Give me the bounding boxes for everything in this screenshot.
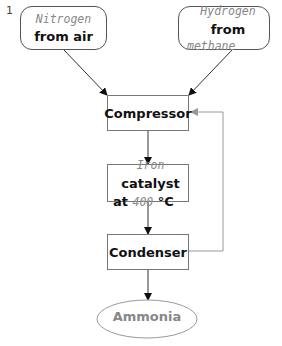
compressor-box: Compressor	[107, 95, 189, 131]
hydrogen-source-box: Hydrogen from methane	[178, 6, 270, 50]
arrow-nitrogen-to-compressor	[64, 50, 107, 95]
recycle-arrow	[189, 112, 223, 251]
nitrogen-label: Nitrogen	[36, 11, 91, 28]
condenser-label: Condenser	[109, 244, 187, 261]
arrow-hydrogen-to-compressor	[189, 50, 232, 95]
hydrogen-from-label: from	[211, 22, 246, 37]
condenser-box: Condenser	[107, 234, 189, 270]
temperature-value: 400	[133, 195, 154, 209]
compressor-label: Compressor	[104, 105, 191, 122]
nitrogen-source-box: Nitrogen from air	[20, 6, 107, 50]
methane-label: methane	[187, 38, 235, 55]
catalyst-box: Iron catalyst at 400 °C	[107, 164, 189, 202]
ammonia-label: Ammonia	[97, 309, 197, 324]
iron-label: Iron	[137, 158, 165, 172]
hydrogen-label: Hydrogen	[200, 4, 255, 18]
nitrogen-source-label: from air	[34, 28, 93, 45]
